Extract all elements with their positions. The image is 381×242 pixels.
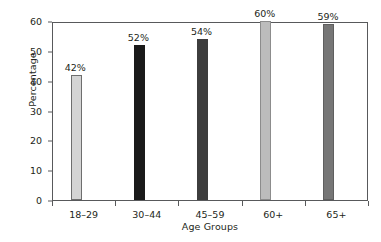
x-tick-label: 60+ [263, 210, 283, 220]
bar[interactable] [323, 24, 334, 200]
y-tick-mark [48, 201, 52, 202]
bar-value-label: 60% [254, 9, 275, 19]
x-tick-mark [305, 201, 306, 206]
x-tick-mark [115, 201, 116, 206]
y-tick-label: 40 [16, 77, 42, 87]
bar-chart: Percentage 0102030405060 42%52%54%60%59%… [0, 0, 381, 242]
y-tick-mark [48, 141, 52, 142]
bar[interactable] [71, 75, 82, 200]
y-tick-label: 50 [16, 47, 42, 57]
y-tick-mark [48, 22, 52, 23]
x-tick-mark [368, 201, 369, 206]
y-tick-label: 20 [16, 137, 42, 147]
y-tick-label: 0 [16, 196, 42, 206]
y-tick-mark [48, 111, 52, 112]
bar-value-label: 59% [317, 12, 338, 22]
plot-area [52, 22, 368, 201]
bar[interactable] [134, 45, 145, 200]
x-tick-mark [242, 201, 243, 206]
y-tick-mark [48, 51, 52, 52]
bar[interactable] [260, 21, 271, 200]
x-tick-mark [52, 201, 53, 206]
y-tick-label: 30 [16, 107, 42, 117]
bar-value-label: 42% [65, 63, 86, 73]
x-tick-label: 18–29 [69, 210, 98, 220]
y-tick-mark [48, 81, 52, 82]
x-tick-mark [178, 201, 179, 206]
bar-value-label: 54% [191, 27, 212, 37]
x-tick-label: 30–44 [132, 210, 161, 220]
bar-value-label: 52% [128, 33, 149, 43]
y-tick-label: 10 [16, 166, 42, 176]
y-tick-label: 60 [16, 17, 42, 27]
x-tick-label: 45–59 [196, 210, 225, 220]
bar[interactable] [197, 39, 208, 200]
x-axis-title: Age Groups [52, 221, 368, 232]
y-tick-mark [48, 171, 52, 172]
x-tick-label: 65+ [326, 210, 346, 220]
